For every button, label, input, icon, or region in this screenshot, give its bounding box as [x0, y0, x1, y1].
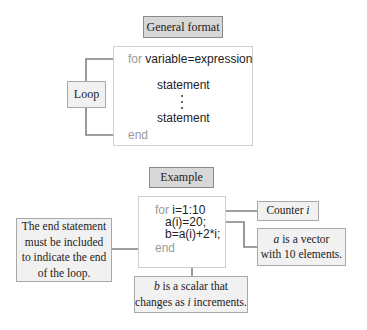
end-keyword: end — [128, 128, 148, 142]
vector-text-1: is a vector — [279, 233, 329, 245]
example-title: Example — [149, 167, 214, 188]
end-note-text: The end statement must be included to in… — [21, 219, 107, 281]
statement-line-1: statement — [157, 78, 210, 92]
scalar-callout: b is a scalar thatchanges as i increment… — [134, 276, 248, 313]
counter-var: i — [306, 204, 309, 216]
counter-text: Counter i — [266, 203, 309, 219]
scalar-text-1: is a scalar that — [160, 280, 228, 292]
general-format-label: General format — [147, 20, 220, 35]
counter-callout: Counter i — [257, 201, 319, 221]
loop-label-box: Loop — [67, 81, 106, 108]
ellipsis-dot — [181, 107, 183, 109]
example-line-3: b=a(i)+2*i; — [165, 227, 220, 241]
general-format-title: General format — [143, 16, 223, 38]
end-keyword: end — [155, 241, 175, 255]
ellipsis-dot — [181, 95, 183, 97]
for-expression: variable=expression — [145, 52, 252, 66]
for-keyword: for — [128, 52, 142, 66]
example-label: Example — [160, 170, 203, 185]
end-note-callout: The end statement must be included to in… — [16, 218, 112, 282]
scalar-text-3: increments. — [191, 296, 247, 308]
counter-prefix: Counter — [266, 204, 306, 216]
scalar-text-2: changes as — [135, 296, 187, 308]
scalar-text: b is a scalar thatchanges as i increment… — [135, 279, 247, 310]
ellipsis-dot — [181, 101, 183, 103]
statement-line-2: statement — [157, 111, 210, 125]
for-line: for variable=expression — [128, 52, 252, 66]
for-loop-diagram: General format for variable=expression s… — [0, 0, 367, 330]
vector-callout: a is a vectorwith 10 elements. — [257, 228, 346, 266]
vector-text-2: with 10 elements. — [261, 248, 342, 260]
vector-text: a is a vectorwith 10 elements. — [261, 232, 342, 263]
loop-label: Loop — [74, 87, 99, 103]
